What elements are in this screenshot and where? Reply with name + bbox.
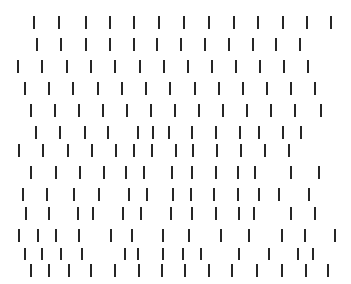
tick-mark [312,248,314,260]
tick-mark [256,264,258,277]
tick-mark [46,188,48,201]
tick-mark [33,16,35,29]
tick-mark [283,60,285,73]
tick-mark [266,82,268,95]
tick-mark [78,229,80,242]
tick-mark [330,16,332,29]
tick-mark [240,144,242,157]
tick-mark [215,207,217,220]
tick-mark [158,16,160,29]
tick-mark [25,207,27,220]
tick-mark [48,82,50,95]
tick-mark [36,38,38,51]
tick-mark [275,38,277,51]
tick-mark [208,16,210,29]
tick-mark [126,104,128,117]
tick-mark [66,60,68,73]
tick-mark [162,248,164,260]
tick-mark [17,60,19,73]
tick-mark [191,126,193,139]
tick-mark [288,144,290,157]
tick-mark [85,38,87,51]
tick-mark [233,16,235,29]
tick-mark [253,207,255,220]
tick-mark [187,60,189,73]
tick-mark [270,104,272,117]
tick-mark [137,248,139,260]
tick-mark [231,264,233,277]
tick-mark [121,82,123,95]
tick-mark [152,126,154,139]
tick-pattern-canvas [0,0,351,284]
tick-mark [208,264,210,277]
tick-mark [90,60,92,73]
tick-mark [68,264,70,277]
tick-mark [213,188,215,201]
tick-mark [215,126,217,139]
tick-mark [191,166,193,179]
tick-mark [78,104,80,117]
tick-mark [114,60,116,73]
tick-mark [215,166,217,179]
tick-mark [163,60,165,73]
tick-mark [84,126,86,139]
tick-mark [37,229,39,242]
tick-mark [168,126,170,139]
tick-mark [24,82,26,95]
tick-mark [327,264,329,277]
tick-mark [140,207,142,220]
tick-mark [278,188,280,201]
tick-mark [162,229,164,242]
tick-mark [102,104,104,117]
tick-mark [156,38,158,51]
tick-mark [30,104,32,117]
tick-mark [22,188,24,201]
tick-mark [122,207,124,220]
tick-mark [318,166,320,179]
tick-mark [85,16,87,29]
tick-mark [72,82,74,95]
tick-mark [172,188,174,201]
tick-mark [200,248,202,260]
tick-mark [131,229,133,242]
tick-mark [258,188,260,201]
tick-mark [314,82,316,95]
tick-mark [137,126,139,139]
tick-mark [290,207,292,220]
tick-mark [320,104,322,117]
tick-mark [242,82,244,95]
tick-mark [124,248,126,260]
tick-mark [268,248,270,260]
tick-mark [150,104,152,117]
tick-mark [98,188,100,201]
tick-mark [304,229,306,242]
tick-mark [305,264,307,277]
tick-mark [307,60,309,73]
tick-mark [299,38,301,51]
tick-mark [73,188,75,201]
tick-mark [238,207,240,220]
tick-mark [238,248,240,260]
tick-mark [216,144,218,157]
tick-mark [190,188,192,201]
tick-mark [79,166,81,179]
tick-mark [204,38,206,51]
tick-mark [161,264,163,277]
tick-mark [143,166,145,179]
tick-mark [151,144,153,157]
tick-mark [258,126,260,139]
tick-mark [128,188,130,201]
tick-mark [308,188,310,201]
tick-mark [237,166,239,179]
tick-mark [169,82,171,95]
tick-mark [188,229,190,242]
tick-mark [30,166,32,179]
tick-mark [334,229,336,242]
tick-mark [91,144,93,157]
tick-mark [60,248,62,260]
tick-mark [115,144,117,157]
tick-mark [139,60,141,73]
tick-mark [146,188,148,201]
tick-mark [259,60,261,73]
tick-mark [211,60,213,73]
